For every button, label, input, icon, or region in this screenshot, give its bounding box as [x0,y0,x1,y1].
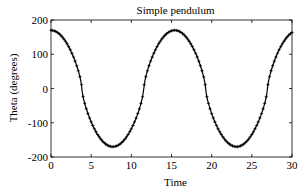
x-tick-label: 10 [126,159,138,171]
plot-area: 051015202530-200-1000100200 [0,0,305,193]
x-tick-label: 30 [287,159,299,171]
x-tick-label: 25 [246,159,258,171]
x-tick-label: 15 [166,159,178,171]
x-tick-label: 0 [48,159,54,171]
y-tick-label: -200 [28,151,49,163]
x-tick-label: 5 [88,159,94,171]
y-tick-label: -100 [28,117,49,129]
y-tick-label: 100 [32,48,49,60]
data-series-theta [49,29,293,149]
axes-frame [51,20,292,157]
y-tick-label: 0 [43,83,49,95]
y-tick-label: 200 [32,14,49,26]
x-tick-label: 20 [206,159,218,171]
